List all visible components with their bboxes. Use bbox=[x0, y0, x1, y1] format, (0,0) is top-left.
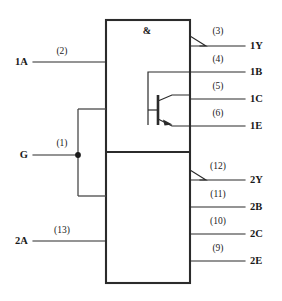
pin-label-2e: 2E bbox=[250, 255, 262, 266]
pin-number-g: (1) bbox=[56, 138, 67, 149]
pin-label-2c: 2C bbox=[250, 228, 263, 239]
schematic-canvas: & 1A (2) G (1) 2A (13) 1Y ( bbox=[0, 0, 282, 301]
pin-number-1e: (6) bbox=[212, 108, 223, 119]
pin-label-1e: 1E bbox=[250, 120, 262, 131]
pin-number-2y: (12) bbox=[210, 161, 226, 172]
open-collector-wedge-1y bbox=[190, 36, 206, 46]
pin-number-1c: (5) bbox=[212, 81, 223, 92]
pin-label-1c: 1C bbox=[250, 93, 263, 104]
pin-number-1b: (4) bbox=[212, 54, 223, 65]
junction-dot-g bbox=[75, 152, 81, 158]
pin-number-2c: (10) bbox=[210, 216, 226, 227]
pin-label-1y: 1Y bbox=[250, 40, 263, 51]
pin-number-1a: (2) bbox=[56, 46, 67, 57]
pin-number-2a: (13) bbox=[54, 225, 70, 236]
pin-label-2y: 2Y bbox=[250, 174, 263, 185]
pin-label-2b: 2B bbox=[250, 201, 262, 212]
pin-number-2e: (9) bbox=[212, 243, 223, 254]
pin-number-2b: (11) bbox=[210, 189, 225, 200]
pin-label-g: G bbox=[20, 149, 28, 160]
pin-label-1a: 1A bbox=[15, 56, 28, 67]
schematic-diagram: & 1A (2) G (1) 2A (13) 1Y ( bbox=[0, 0, 282, 301]
and-gate-symbol: & bbox=[143, 25, 151, 36]
pin-number-1y: (3) bbox=[212, 26, 223, 37]
pin-label-2a: 2A bbox=[15, 235, 28, 246]
pin-label-1b: 1B bbox=[250, 66, 262, 77]
open-collector-wedge-2y bbox=[190, 170, 206, 180]
